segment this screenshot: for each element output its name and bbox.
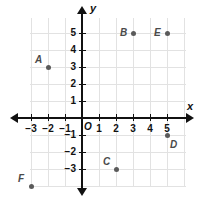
y-axis-tick <box>79 33 86 34</box>
grid-line-vertical <box>48 18 49 186</box>
data-point-label: A <box>35 55 42 65</box>
y-axis-tick <box>79 67 86 68</box>
y-axis-tick <box>79 50 86 51</box>
grid-line-horizontal <box>30 169 186 170</box>
y-axis-tick-label: 3 <box>56 62 76 72</box>
x-axis-label: x <box>187 101 193 112</box>
data-point <box>131 31 136 36</box>
grid-line-vertical <box>150 18 151 186</box>
y-axis-tick-label: 4 <box>56 45 76 55</box>
data-point-label: D <box>170 140 177 150</box>
y-axis-tick-label: −2 <box>56 147 76 157</box>
grid-line-vertical <box>167 18 168 186</box>
data-point-label: F <box>18 174 24 184</box>
x-axis-tick <box>167 114 168 121</box>
y-axis-tick <box>79 101 86 102</box>
grid-line-vertical <box>116 18 117 186</box>
y-axis-tick-label: 2 <box>56 79 76 89</box>
grid-line-horizontal <box>30 33 186 34</box>
grid-line-horizontal <box>30 84 186 85</box>
grid-line-horizontal <box>30 152 186 153</box>
data-point <box>46 65 51 70</box>
data-point <box>29 184 34 189</box>
data-point <box>165 133 170 138</box>
x-axis-tick <box>99 114 100 121</box>
x-axis-arrow-right <box>186 113 194 123</box>
y-axis-arrow-up <box>77 6 87 14</box>
y-axis-tick-label: −3 <box>56 164 76 174</box>
y-axis-tick-label: 5 <box>56 28 76 38</box>
x-axis-tick <box>133 114 134 121</box>
y-axis-tick <box>79 84 86 85</box>
y-axis-arrow-down <box>77 188 87 196</box>
x-axis-arrow-left <box>10 113 18 123</box>
grid-line-horizontal <box>30 135 186 136</box>
data-point-label: E <box>154 28 161 38</box>
origin-label: O <box>84 122 92 132</box>
y-axis-tick <box>79 135 86 136</box>
data-point <box>114 167 119 172</box>
y-axis-tick <box>79 152 86 153</box>
grid-line-vertical <box>133 18 134 186</box>
y-axis-tick-label: 1 <box>56 96 76 106</box>
x-axis-tick <box>65 114 66 121</box>
grid-line-horizontal <box>30 186 186 187</box>
y-axis-label: y <box>90 3 96 14</box>
data-point-label: C <box>103 157 110 167</box>
x-axis-tick <box>116 114 117 121</box>
x-axis-tick <box>48 114 49 121</box>
y-axis-tick <box>79 169 86 170</box>
grid-line-horizontal <box>30 101 186 102</box>
x-axis-tick <box>31 114 32 121</box>
grid-line-horizontal <box>30 67 186 68</box>
grid-line-vertical <box>99 18 100 186</box>
grid-line-vertical <box>31 18 32 186</box>
y-axis-tick-label: −1 <box>56 130 76 140</box>
x-axis <box>18 117 186 119</box>
data-point <box>165 31 170 36</box>
grid-line-horizontal <box>30 50 186 51</box>
coordinate-plane: −3−2−11234554321−1−2−3OxyABCDEF <box>0 0 202 201</box>
grid-line-vertical <box>184 18 185 186</box>
data-point-label: B <box>120 28 127 38</box>
x-axis-tick <box>150 114 151 121</box>
